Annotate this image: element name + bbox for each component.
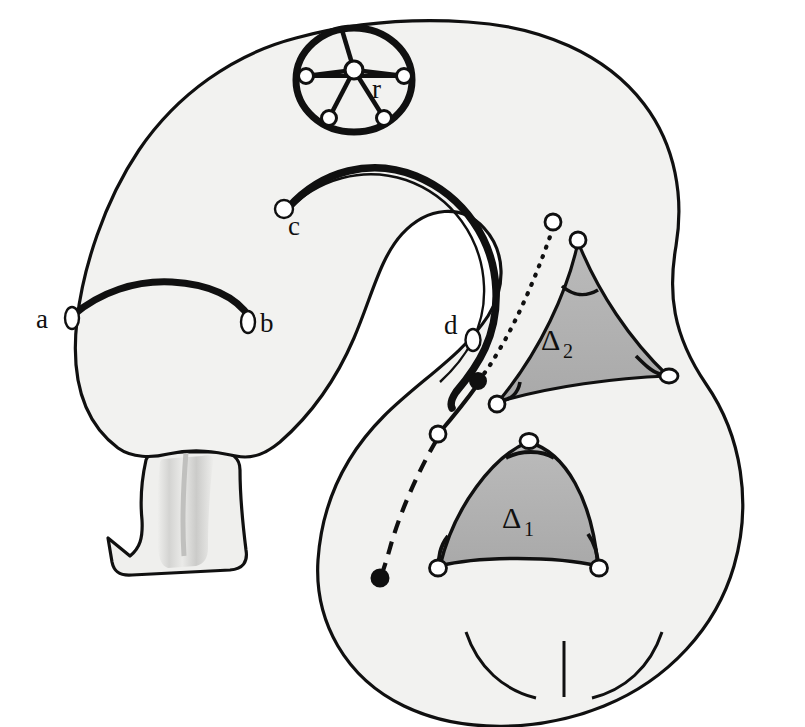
path-open-vertex: [430, 426, 446, 442]
vertex-a: [65, 307, 79, 329]
path-open-vertex: [545, 214, 561, 230]
triangle-delta-1-subscript: 1: [524, 518, 534, 540]
triangle-delta-2-subscript: 2: [563, 340, 573, 362]
label-a: a: [36, 304, 48, 334]
vertex-d: [466, 329, 481, 351]
wheel-vertex: [377, 111, 392, 126]
vertex-b: [241, 311, 255, 333]
stalk-tail: [108, 452, 246, 575]
triangle-vertex: [660, 369, 678, 383]
topology-figure: r Δ 2 Δ: [0, 0, 805, 727]
wheel-vertex: [397, 69, 412, 84]
wheel-hub-vertex: [345, 61, 363, 79]
triangle-vertex: [489, 396, 505, 412]
triangle-delta-1-label: Δ: [502, 501, 521, 534]
wheel-vertex: [322, 111, 337, 126]
label-d: d: [444, 310, 458, 340]
label-b: b: [260, 308, 274, 338]
path-filled-dot: [372, 570, 389, 587]
triangle-vertex: [591, 560, 608, 576]
label-c: c: [288, 211, 300, 241]
triangle-vertex: [570, 232, 586, 248]
triangle-vertex: [520, 434, 538, 449]
wheel-vertex: [299, 69, 314, 84]
figure-root: r Δ 2 Δ: [0, 0, 805, 727]
wheel-label-r: r: [372, 74, 381, 104]
path-filled-dot: [470, 373, 486, 389]
triangle-vertex: [430, 560, 447, 576]
triangle-delta-2-label: Δ: [541, 323, 560, 356]
